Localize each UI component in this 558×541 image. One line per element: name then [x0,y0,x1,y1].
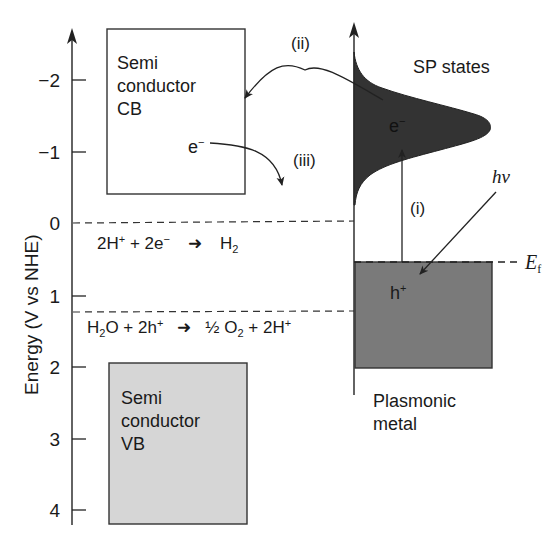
hole-symbol: h [390,283,400,303]
sp-states-label: SP states [413,58,490,76]
reaction-term: O + 2h [105,318,157,337]
hydrogen-reaction: 2H+ + 2e−➜H2 [97,234,238,255]
electron-symbol: e [188,137,198,157]
h2-potential-line [73,221,354,223]
reaction-arrow-icon: ➜ [170,235,220,252]
metal-filled-states [355,262,492,368]
tick-label: 2 [20,358,60,377]
tick-label: 4 [20,501,60,520]
cb-label-line1: Semi [117,52,196,75]
metal-label-line2: metal [373,413,456,436]
electron-symbol: e [389,116,399,136]
cb-electron: e− [188,131,204,159]
photon-label: hν [492,167,510,186]
reaction-charge: + [285,317,291,329]
cb-label-line2: conductor [117,75,196,98]
reaction-arrow-icon: ➜ [163,319,205,336]
cb-label-line3: CB [117,98,196,121]
process-ii-label: (ii) [291,35,310,52]
reaction-term: + 2H [244,318,285,337]
reaction-term: ½ O [205,318,237,337]
vb-label: Semi conductor VB [121,387,200,456]
fermi-subscript: f [537,262,541,276]
tick-label: 1 [20,287,60,306]
diagram-graphics [0,0,558,541]
tick-label: 0 [20,214,60,233]
vb-label-line1: Semi [121,387,200,410]
reaction-term: H [220,234,232,253]
vb-label-line3: VB [121,433,200,456]
metal-label-line1: Plasmonic [373,390,456,413]
reaction-term: + 2e [125,234,163,253]
process-iii-label: (iii) [293,152,316,169]
electron-charge: − [198,136,204,148]
reaction-term: 2H [97,234,119,253]
y-axis [67,28,86,525]
fermi-symbol: E [525,251,537,273]
tick-label: −1 [20,143,60,162]
tick-label: 3 [20,430,60,449]
metal-hole: h+ [390,277,406,305]
vb-label-line2: conductor [121,410,200,433]
plasmonic-metal-label: Plasmonic metal [373,390,456,436]
fermi-level-label: Ef [525,252,541,275]
oxygen-reaction: H2O + 2h+➜½ O2 + 2H+ [87,318,291,339]
reaction-subscript: 2 [232,243,238,255]
o2-potential-line [73,311,354,312]
cb-label: Semi conductor CB [117,52,196,121]
sp-electron: e− [389,110,405,138]
hole-charge: + [400,282,406,294]
electron-charge: − [399,115,405,127]
energy-level-diagram: Energy (V vs NHE) −2 −1 0 1 2 3 4 Semi c… [0,0,558,541]
process-i-label: (i) [410,200,425,217]
tick-label: −2 [20,71,60,90]
reaction-term: H [87,318,99,337]
